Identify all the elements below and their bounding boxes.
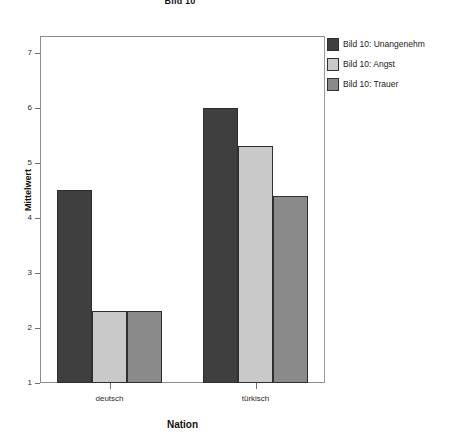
bar — [203, 108, 238, 383]
y-axis-tick-label: 3 — [28, 267, 32, 278]
legend-label: Bild 10: Unangenehm — [343, 39, 425, 50]
legend-label: Bild 10: Angst — [343, 59, 395, 70]
bar — [127, 311, 162, 383]
bar — [273, 196, 308, 383]
y-axis-tick-mark — [35, 383, 40, 384]
y-axis-tick-mark — [35, 328, 40, 329]
x-axis-title: Nation — [40, 419, 325, 430]
y-axis-title: Mittelwert — [23, 140, 33, 240]
chart-legend: Bild 10: UnangenehmBild 10: AngstBild 10… — [327, 36, 451, 96]
y-axis-tick-mark — [35, 218, 40, 219]
bar — [238, 146, 273, 383]
y-axis-tick-label: 5 — [28, 157, 32, 168]
y-axis-tick-label: 2 — [28, 322, 32, 333]
y-axis-tick: 6 — [0, 108, 40, 109]
y-axis-tick-label: 4 — [28, 212, 32, 223]
y-axis-tick: 5 — [0, 163, 40, 164]
legend-item: Bild 10: Trauer — [327, 76, 451, 93]
y-axis-tick: 3 — [0, 273, 40, 274]
legend-swatch — [327, 38, 339, 51]
legend-swatch — [327, 78, 339, 91]
bar-chart: Bild 10 Mittelwert 1234567 deutschtürkis… — [0, 0, 451, 443]
y-axis-tick-mark — [35, 163, 40, 164]
y-axis-tick-mark — [35, 53, 40, 54]
y-axis-tick: 1 — [0, 383, 40, 384]
chart-title: Bild 10 — [0, 0, 360, 6]
y-axis-tick: 2 — [0, 328, 40, 329]
y-axis-tick: 7 — [0, 53, 40, 54]
y-axis-tick-mark — [35, 273, 40, 274]
x-axis-tick-mark — [256, 383, 257, 389]
legend-item: Bild 10: Unangenehm — [327, 36, 451, 53]
legend-swatch — [327, 58, 339, 71]
legend-label: Bild 10: Trauer — [343, 79, 398, 90]
x-axis-tick-mark — [110, 383, 111, 389]
y-axis-tick-label: 1 — [28, 377, 32, 388]
x-axis-tick-label: deutsch — [60, 394, 160, 403]
bar — [57, 190, 92, 383]
x-axis-tick-label: türkisch — [206, 394, 306, 403]
y-axis-tick-label: 7 — [28, 47, 32, 58]
bar — [92, 311, 127, 383]
y-axis-tick-label: 6 — [28, 102, 32, 113]
y-axis-tick-mark — [35, 108, 40, 109]
y-axis-tick: 4 — [0, 218, 40, 219]
legend-item: Bild 10: Angst — [327, 56, 451, 73]
